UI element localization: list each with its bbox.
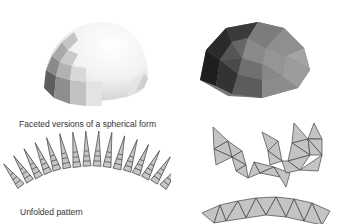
caption-unfolded-pattern: Unfolded pattern [20, 207, 83, 217]
triangle-net-graphic [190, 115, 342, 224]
caption-faceted-versions: Faceted versions of a spherical form [19, 119, 156, 129]
gore-pattern-graphic [0, 130, 171, 194]
dark-dome-graphic [198, 20, 314, 100]
gore-unfolded-pattern [0, 130, 171, 194]
light-faceted-dome [40, 18, 152, 106]
dark-faceted-dome [198, 20, 314, 100]
light-dome-graphic [40, 18, 152, 106]
triangle-unfolded-net [190, 115, 342, 224]
